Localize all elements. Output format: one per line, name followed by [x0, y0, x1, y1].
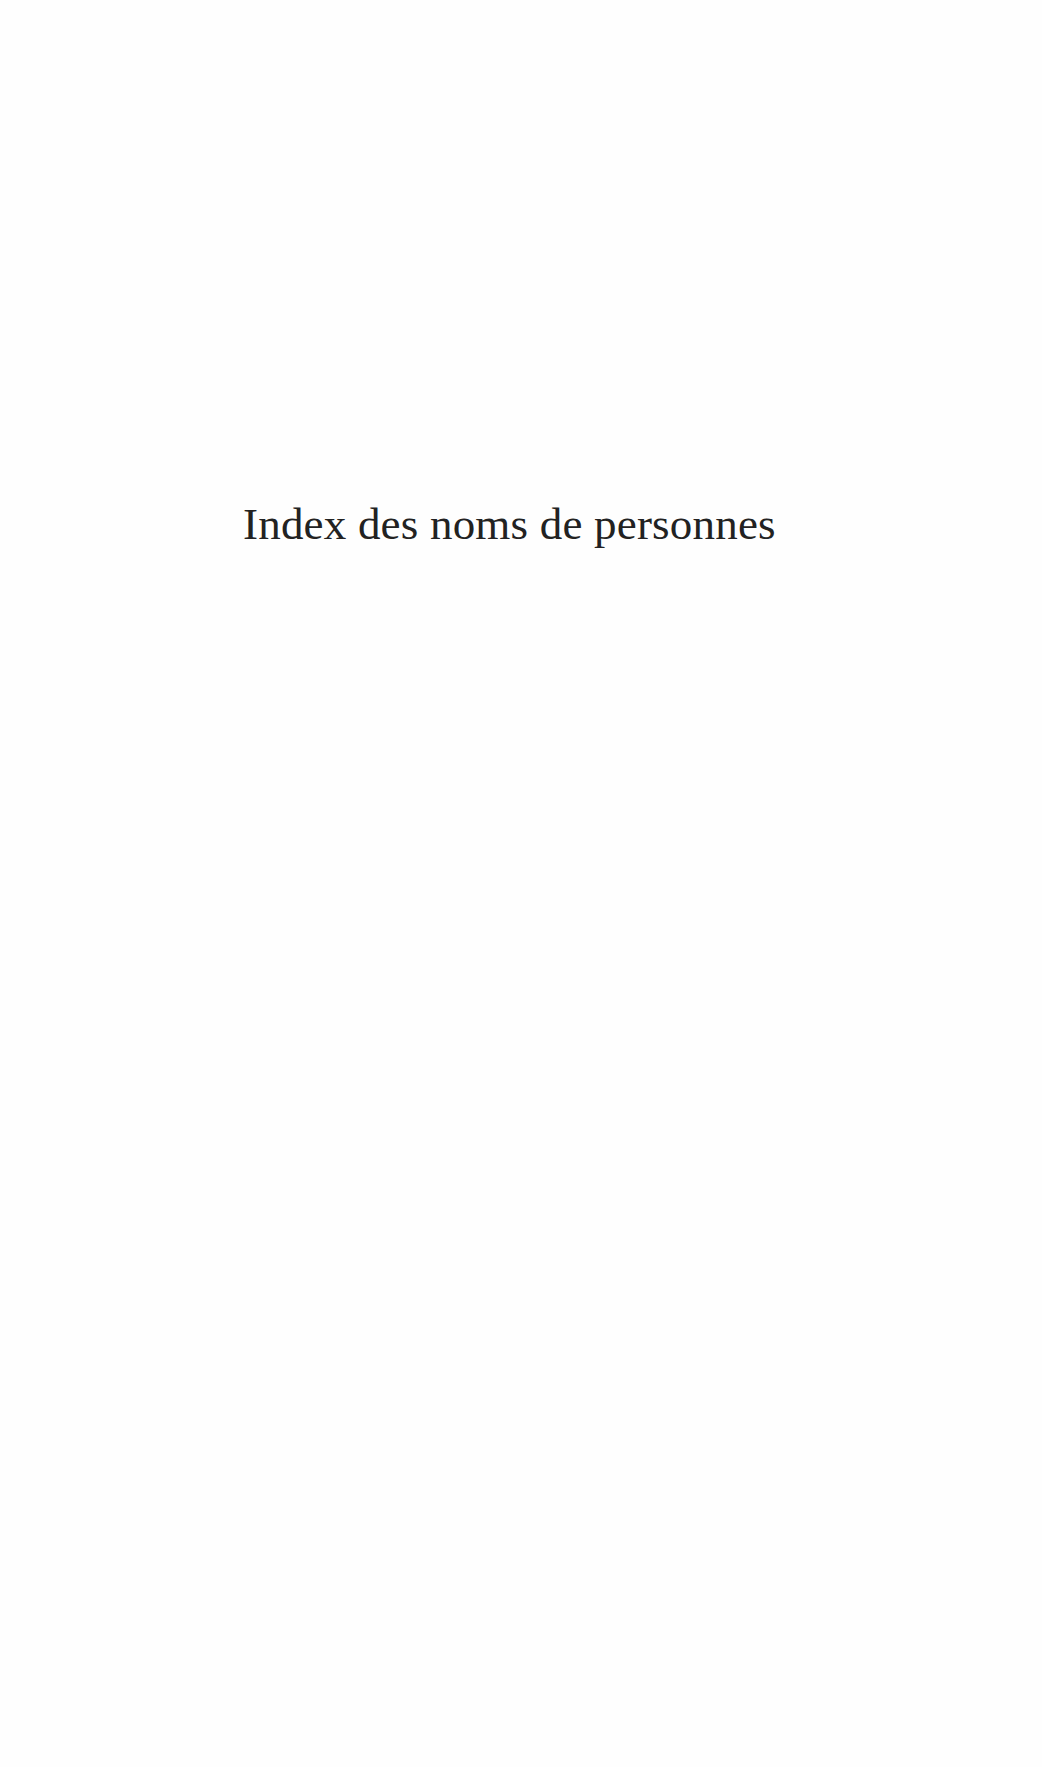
page-title: Index des noms de personnes [243, 496, 776, 552]
book-page: Index des noms de personnes [0, 0, 1042, 1767]
